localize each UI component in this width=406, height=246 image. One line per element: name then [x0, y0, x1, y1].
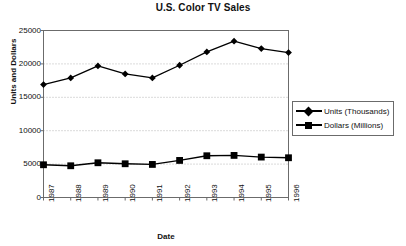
x-axis-tick-label: 1995	[265, 184, 273, 202]
x-axis-tick-label: 1991	[156, 184, 164, 202]
chart-container: U.S. Color TV Sales Units and Dollars 05…	[0, 0, 406, 246]
x-axis-tick-label: 1989	[102, 184, 110, 202]
legend-item[interactable]: Units (Thousands)	[296, 104, 389, 118]
chart-legend: Units (Thousands)Dollars (Millions)	[292, 101, 394, 136]
legend-item[interactable]: Dollars (Millions)	[296, 118, 389, 132]
x-axis-tick-label: 1996	[293, 184, 301, 202]
x-axis-tick-label: 1987	[48, 184, 56, 202]
x-axis-tick-label: 1994	[238, 184, 246, 202]
x-axis-tick-label: 1990	[129, 184, 137, 202]
legend-item-label: Units (Thousands)	[322, 107, 389, 116]
x-axis-tick-label: 1993	[211, 184, 219, 202]
x-axis-title: Date	[43, 232, 289, 241]
legend-item-label: Dollars (Millions)	[322, 121, 383, 130]
diamond-marker-icon	[296, 105, 322, 117]
square-marker-icon	[296, 119, 322, 131]
x-axis-tick-label: 1988	[75, 184, 83, 202]
x-axis-tick-label: 1992	[184, 184, 192, 202]
